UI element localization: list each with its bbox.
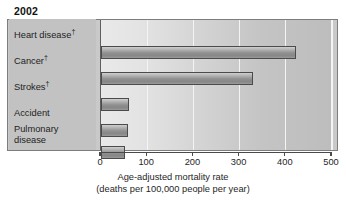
category-label-0: Heart disease† (14, 30, 75, 41)
footnote-dagger-icon: † (71, 28, 75, 35)
category-label-1: Cancer† (14, 56, 48, 67)
bar-0 (101, 46, 296, 59)
page-title: 2002 (14, 5, 38, 17)
category-label-4: Pulmonarydisease (14, 124, 58, 145)
gridline-100 (147, 20, 148, 150)
category-label-2: Strokes† (14, 82, 49, 93)
x-tick-200 (192, 152, 193, 156)
x-tick-400 (284, 152, 285, 156)
x-axis-title: Age-adjusted mortality rate (deaths per … (0, 172, 346, 195)
x-tick-0 (99, 152, 100, 156)
category-label-text: Cancer (14, 56, 44, 66)
x-tick-label-300: 300 (231, 157, 247, 167)
category-label-text: Strokes (14, 82, 46, 92)
category-label-text: Accident (14, 108, 50, 118)
bar-2 (101, 98, 129, 111)
x-tick-label-0: 0 (97, 157, 102, 167)
category-label-text-line2: disease (14, 135, 46, 145)
category-label-text: Pulmonary (14, 124, 58, 134)
x-axis-line (100, 152, 331, 153)
footnote-dagger-icon: † (46, 80, 50, 87)
x-tick-label-500: 500 (323, 157, 339, 167)
x-axis-title-line1: Age-adjusted mortality rate (0, 172, 346, 184)
x-tick-label-100: 100 (138, 157, 154, 167)
x-tick-500 (330, 152, 331, 156)
gridline-300 (239, 20, 240, 150)
mortality-bar-chart-figure: 2002 Age-adjusted mortality rate (deaths… (0, 0, 346, 204)
x-tick-100 (146, 152, 147, 156)
bar-1 (101, 72, 253, 85)
plot-area (100, 20, 331, 150)
x-tick-300 (238, 152, 239, 156)
x-tick-label-400: 400 (277, 157, 293, 167)
x-axis-title-line2: (deaths per 100,000 people per year) (0, 184, 346, 196)
gridline-500 (331, 20, 332, 150)
gridline-200 (193, 20, 194, 150)
gridline-400 (285, 20, 286, 150)
x-tick-label-200: 200 (185, 157, 201, 167)
category-label-text: Heart disease (14, 30, 71, 40)
footnote-dagger-icon: † (44, 54, 48, 61)
bar-3 (101, 124, 128, 137)
category-label-3: Accident (14, 108, 50, 119)
